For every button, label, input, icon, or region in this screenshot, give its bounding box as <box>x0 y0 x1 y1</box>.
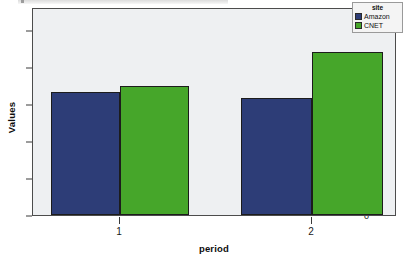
x-tick-label: 1 <box>116 226 122 237</box>
legend-swatch-icon <box>355 13 362 20</box>
bar-cnet-period-1 <box>120 86 189 216</box>
legend-item-amazon: Amazon <box>355 12 400 21</box>
x-tick-label: 2 <box>308 226 314 237</box>
bar-amazon-period-1 <box>51 92 120 215</box>
y-axis-label: Values <box>6 88 17 148</box>
legend-entries: AmazonCNET <box>355 12 400 30</box>
x-axis-label: period <box>32 243 396 254</box>
bar-amazon-period-2 <box>241 98 312 215</box>
plot-area <box>32 8 396 216</box>
chart-screenshot: Values 0246810 12 period site AmazonCNET <box>0 0 405 261</box>
legend: site AmazonCNET <box>352 2 403 33</box>
legend-item-cnet: CNET <box>355 21 400 30</box>
legend-item-label: CNET <box>364 21 383 30</box>
x-tick-mark <box>311 217 312 224</box>
bar-cnet-period-2 <box>312 52 383 215</box>
x-tick-mark <box>119 217 120 224</box>
legend-item-label: Amazon <box>364 12 390 21</box>
bar-layer <box>33 9 395 215</box>
scan-artifact-strip <box>18 0 228 4</box>
legend-swatch-icon <box>355 22 362 29</box>
legend-title: site <box>355 4 400 12</box>
y-axis: Values <box>0 0 32 261</box>
